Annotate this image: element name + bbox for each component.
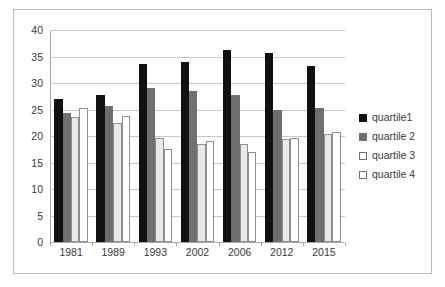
- bar-group: [307, 30, 341, 242]
- bar[interactable]: [79, 108, 87, 242]
- bar[interactable]: [265, 53, 273, 242]
- bar[interactable]: [96, 95, 104, 242]
- bar[interactable]: [139, 64, 147, 242]
- bar[interactable]: [63, 113, 71, 242]
- bars-layer: [50, 30, 345, 242]
- y-axis-tick-label: 35: [14, 51, 47, 62]
- legend-label: quartile1: [372, 112, 412, 123]
- x-axis-tick-label: 2012: [270, 247, 293, 258]
- legend-swatch-icon: [359, 152, 367, 160]
- plot-area: [50, 30, 345, 242]
- bar[interactable]: [147, 88, 155, 242]
- bar-group: [265, 30, 299, 242]
- bar-group: [223, 30, 257, 242]
- x-axis-tick-mark: [50, 243, 51, 246]
- bar[interactable]: [273, 110, 281, 242]
- bar-group: [181, 30, 215, 242]
- legend-item[interactable]: quartile 2: [359, 127, 429, 146]
- x-axis-tick-label: 1981: [59, 247, 82, 258]
- legend-label: quartile 2: [372, 131, 415, 142]
- legend-label: quartile 3: [372, 150, 415, 161]
- legend-swatch-icon: [359, 171, 367, 179]
- x-axis-tick-label: 2002: [186, 247, 209, 258]
- legend-swatch-icon: [359, 133, 367, 141]
- bar-group: [139, 30, 173, 242]
- legend-item[interactable]: quartile 3: [359, 146, 429, 165]
- bar[interactable]: [197, 144, 205, 242]
- x-axis-tick-label: 1993: [144, 247, 167, 258]
- y-axis-tick-label: 0: [14, 237, 47, 248]
- bar[interactable]: [71, 117, 79, 242]
- x-axis-tick-label: 2006: [228, 247, 251, 258]
- bar[interactable]: [324, 134, 332, 242]
- bar[interactable]: [105, 106, 113, 242]
- x-axis-tick-mark: [261, 243, 262, 246]
- bar[interactable]: [282, 139, 290, 242]
- y-axis-tick-label: 15: [14, 157, 47, 168]
- y-axis-tick-labels: 0510152025303540: [14, 30, 47, 242]
- bar[interactable]: [307, 66, 315, 242]
- chart-frame: 0510152025303540 19811989199320022006201…: [13, 9, 432, 274]
- x-axis-tick-mark: [176, 243, 177, 246]
- y-axis-tick-label: 10: [14, 184, 47, 195]
- bar[interactable]: [290, 138, 298, 242]
- bar[interactable]: [189, 91, 197, 242]
- bar-group: [54, 30, 88, 242]
- x-axis-tick-mark: [92, 243, 93, 246]
- x-axis-tick-mark: [345, 243, 346, 246]
- legend-swatch-icon: [359, 114, 367, 122]
- gridline: [50, 242, 345, 243]
- bar[interactable]: [231, 95, 239, 242]
- bar[interactable]: [248, 152, 256, 242]
- bar[interactable]: [122, 116, 130, 242]
- x-axis-tick-mark: [219, 243, 220, 246]
- chart-legend: quartile1quartile 2quartile 3quartile 4: [359, 108, 429, 184]
- bar[interactable]: [164, 149, 172, 242]
- bar[interactable]: [113, 123, 121, 242]
- x-axis-tick-mark: [303, 243, 304, 246]
- y-axis-tick-label: 40: [14, 25, 47, 36]
- x-axis-tick-labels: 1981198919932002200620122015: [50, 247, 345, 263]
- bar[interactable]: [181, 62, 189, 242]
- bar-group: [96, 30, 130, 242]
- legend-item[interactable]: quartile1: [359, 108, 429, 127]
- bar[interactable]: [206, 141, 214, 242]
- x-axis-tick-label: 2015: [312, 247, 335, 258]
- legend-item[interactable]: quartile 4: [359, 165, 429, 184]
- y-axis-tick-label: 20: [14, 131, 47, 142]
- bar[interactable]: [54, 99, 62, 242]
- bar[interactable]: [155, 138, 163, 242]
- bar[interactable]: [315, 108, 323, 242]
- y-axis-tick-label: 25: [14, 104, 47, 115]
- y-axis-tick-label: 30: [14, 78, 47, 89]
- legend-label: quartile 4: [372, 169, 415, 180]
- x-axis-tick-label: 1989: [102, 247, 125, 258]
- y-axis-tick-label: 5: [14, 210, 47, 221]
- x-axis-tick-mark: [134, 243, 135, 246]
- bar[interactable]: [240, 144, 248, 242]
- bar[interactable]: [332, 132, 340, 242]
- bar[interactable]: [223, 50, 231, 242]
